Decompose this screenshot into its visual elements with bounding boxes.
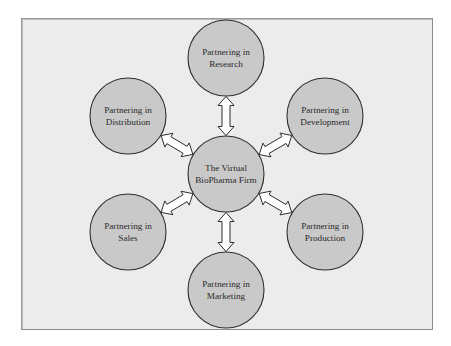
node-label-line2: Marketing xyxy=(186,290,266,302)
node-label-line1: Partnering in xyxy=(88,221,168,233)
node-label-line1: Partnering in xyxy=(285,221,365,233)
node-label-production: Partnering in Production xyxy=(285,221,365,244)
double-arrow-icon-marketing xyxy=(218,213,234,252)
node-label-line1: Partnering in xyxy=(186,47,266,59)
node-label-line2: Distribution xyxy=(88,116,168,128)
node-label-line2: Production xyxy=(285,232,365,244)
node-label-sales: Partnering in Sales xyxy=(88,221,168,244)
node-label-line1: Partnering in xyxy=(186,279,266,291)
double-arrow-icon-development xyxy=(259,133,292,157)
hub-label-line2: BioPharma Firm xyxy=(186,174,266,186)
node-label-research: Partnering in Research xyxy=(186,47,266,70)
node-label-marketing: Partnering in Marketing xyxy=(186,279,266,302)
node-label-distribution: Partnering in Distribution xyxy=(88,105,168,128)
node-label-line1: Partnering in xyxy=(88,105,168,117)
double-arrow-icon-distribution xyxy=(161,133,193,156)
node-label-development: Partnering in Development xyxy=(285,105,365,128)
double-arrow-icon-production xyxy=(259,191,292,215)
node-label-line2: Research xyxy=(186,58,266,70)
double-arrow-icon-research xyxy=(218,97,234,136)
node-label-line1: Partnering in xyxy=(285,105,365,117)
hub-label: The Virtual BioPharma Firm xyxy=(186,163,266,186)
node-label-line2: Development xyxy=(285,116,365,128)
hub-label-line1: The Virtual xyxy=(186,163,266,175)
node-label-line2: Sales xyxy=(88,232,168,244)
double-arrow-icon-sales xyxy=(161,191,193,214)
